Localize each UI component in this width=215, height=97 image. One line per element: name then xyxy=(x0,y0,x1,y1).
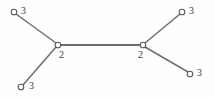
node-leaf-bottom-left xyxy=(18,84,24,90)
node-internal-right xyxy=(140,42,146,48)
node-label-leaf-bottom-left: 3 xyxy=(29,81,34,91)
edge-bottom-left xyxy=(23,47,56,85)
node-internal-left xyxy=(55,42,61,48)
node-label-leaf-top-right: 3 xyxy=(189,6,194,16)
node-label-internal-left: 2 xyxy=(59,50,64,60)
node-label-internal-right: 2 xyxy=(138,50,143,60)
edge-bottom-right xyxy=(145,47,188,72)
graph-figure: 3 3 2 2 3 3 xyxy=(0,0,215,97)
edge-top-right xyxy=(145,14,180,43)
node-leaf-bottom-right xyxy=(187,71,193,77)
edge-group xyxy=(16,14,188,85)
node-label-leaf-bottom-right: 3 xyxy=(197,68,202,78)
edge-top-left xyxy=(16,14,56,43)
node-label-leaf-top-left: 3 xyxy=(21,6,26,16)
node-group xyxy=(11,9,193,90)
node-leaf-top-right xyxy=(179,9,185,15)
node-leaf-top-left xyxy=(11,9,17,15)
